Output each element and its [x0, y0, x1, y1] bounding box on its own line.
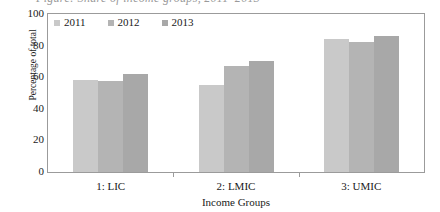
y-tick-label: 60: [0, 71, 44, 82]
x-tick-mark: [299, 173, 300, 177]
bars-layer: [48, 14, 424, 172]
legend-label: 2011: [64, 17, 86, 28]
x-tick-mark: [173, 173, 174, 177]
y-tick-label: 40: [0, 103, 44, 114]
y-tick-label: 100: [0, 8, 44, 19]
y-tick-label: 0: [0, 166, 44, 177]
y-tick-label: 80: [0, 40, 44, 51]
legend-swatch-icon: [162, 20, 168, 26]
legend-label: 2013: [172, 17, 194, 28]
figure-caption-strip: Figure: Share of income groups, 2011–201…: [0, 0, 440, 7]
legend-label: 2012: [118, 17, 140, 28]
legend-swatch-icon: [108, 20, 114, 26]
bar-1-lic-2011: [73, 80, 98, 172]
x-tick-label: 2: LMIC: [173, 180, 298, 192]
legend-item-2011[interactable]: 2011: [54, 17, 86, 28]
x-tick-label: 3: UMIC: [299, 180, 424, 192]
legend-item-2013[interactable]: 2013: [162, 17, 194, 28]
y-tick-label: 20: [0, 134, 44, 145]
bar-2-lmic-2013: [249, 61, 274, 172]
bar-2-lmic-2012: [224, 66, 249, 172]
bar-3-umic-2012: [349, 42, 374, 172]
bar-2-lmic-2011: [199, 85, 224, 172]
bar-3-umic-2011: [324, 39, 349, 172]
x-tick-label: 1: LIC: [48, 180, 173, 192]
legend-item-2012[interactable]: 2012: [108, 17, 140, 28]
figure-caption: Figure: Share of income groups, 2011–201…: [36, 0, 260, 6]
bar-3-umic-2013: [374, 36, 399, 172]
x-axis-title: Income Groups: [47, 196, 425, 208]
legend-swatch-icon: [54, 20, 60, 26]
chart-legend: 201120122013: [54, 17, 194, 28]
bar-1-lic-2013: [123, 74, 148, 172]
bar-1-lic-2012: [98, 81, 123, 172]
